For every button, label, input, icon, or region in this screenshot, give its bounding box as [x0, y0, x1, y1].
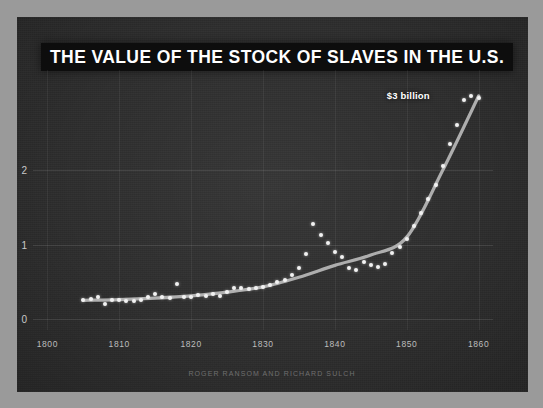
data-point [376, 265, 380, 269]
data-point [139, 298, 143, 302]
data-point [369, 263, 373, 267]
data-point [390, 251, 394, 255]
data-point [211, 292, 215, 296]
data-point [124, 299, 128, 303]
data-point [333, 250, 337, 254]
data-point [110, 298, 114, 302]
data-point [426, 197, 430, 201]
data-point [182, 295, 186, 299]
data-point [448, 142, 452, 146]
data-point [398, 245, 402, 249]
data-point [311, 222, 315, 226]
trend-line [33, 70, 493, 330]
data-point [462, 98, 466, 102]
y-axis-tick-label: 0 [5, 313, 27, 324]
data-point [297, 266, 301, 270]
data-point [340, 255, 344, 259]
data-point [232, 286, 236, 290]
data-point [196, 293, 200, 297]
data-point [204, 294, 208, 298]
data-point [247, 287, 251, 291]
data-point [419, 211, 423, 215]
x-axis-tick-label: 1800 [37, 339, 58, 349]
data-point [153, 292, 157, 296]
data-point [103, 302, 107, 306]
x-axis-tick-label: 1860 [468, 339, 489, 349]
data-point [283, 278, 287, 282]
data-point [441, 164, 445, 168]
data-point [132, 299, 136, 303]
data-point [89, 297, 93, 301]
data-point [168, 296, 172, 300]
data-point [477, 96, 481, 100]
data-point [383, 262, 387, 266]
data-point [455, 123, 459, 127]
data-point [275, 280, 279, 284]
data-point [261, 285, 265, 289]
data-point [225, 290, 229, 294]
data-point [254, 286, 258, 290]
x-axis-tick-label: 1850 [396, 339, 417, 349]
plot-area: 0121800181018201830184018501860 [33, 70, 493, 330]
x-axis-tick-label: 1840 [324, 339, 345, 349]
data-point [326, 241, 330, 245]
data-point [354, 268, 358, 272]
data-point [96, 295, 100, 299]
data-point [268, 283, 272, 287]
data-point [469, 94, 473, 98]
data-point [412, 224, 416, 228]
x-axis-tick-label: 1810 [109, 339, 130, 349]
data-point [81, 298, 85, 302]
chart-figure: THE VALUE OF THE STOCK OF SLAVES IN THE … [0, 0, 543, 408]
data-point [434, 183, 438, 187]
data-point [239, 286, 243, 290]
page-title: THE VALUE OF THE STOCK OF SLAVES IN THE … [50, 47, 504, 68]
x-axis-tick-label: 1830 [252, 339, 273, 349]
chart-title-bar: THE VALUE OF THE STOCK OF SLAVES IN THE … [41, 43, 513, 71]
data-point [218, 294, 222, 298]
x-axis-tick-label: 1820 [180, 339, 201, 349]
data-point [189, 295, 193, 299]
data-point [347, 266, 351, 270]
data-point [319, 233, 323, 237]
data-point [362, 260, 366, 264]
annotation-three-billion: $3 billion [387, 90, 430, 101]
data-point [304, 252, 308, 256]
data-point [405, 237, 409, 241]
chart-credit: ROGER RANSOM AND RICHARD SULCH [188, 370, 355, 377]
data-point [117, 298, 121, 302]
data-point [146, 295, 150, 299]
data-point [290, 273, 294, 277]
data-point [160, 295, 164, 299]
y-axis-tick-label: 2 [5, 165, 27, 176]
y-axis-tick-label: 1 [5, 239, 27, 250]
data-point [175, 282, 179, 286]
